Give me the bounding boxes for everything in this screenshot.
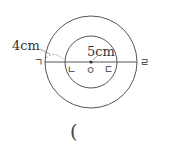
label-rieul: ㄹ bbox=[140, 57, 149, 68]
label-giyeok: ㄱ bbox=[34, 57, 43, 68]
concentric-circles-diagram: 4cm 5cm ㄱ ㄴ ㅇ ㄷ ㄹ bbox=[0, 0, 175, 151]
label-digeut: ㄷ bbox=[104, 64, 113, 75]
label-4cm: 4cm bbox=[12, 38, 40, 53]
label-nieun: ㄴ bbox=[67, 64, 76, 75]
center-point bbox=[89, 60, 92, 63]
answer-parenthesis: ( bbox=[70, 120, 77, 142]
dimension-arc-4cm bbox=[46, 54, 64, 60]
label-5cm: 5cm bbox=[87, 44, 115, 59]
label-ieung: ㅇ bbox=[86, 65, 95, 76]
leader-4cm bbox=[40, 49, 50, 54]
